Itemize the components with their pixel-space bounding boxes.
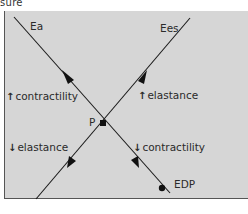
- ees-line: [36, 18, 190, 199]
- ees-label: Ees: [160, 22, 179, 34]
- diagram-root: sure Ea Ees ↑contractility ↑elastance P …: [0, 0, 248, 214]
- ea-line: [14, 17, 170, 193]
- annotation-text: contractility: [15, 90, 78, 102]
- annotation-text: elastance: [147, 89, 198, 101]
- ea-label: Ea: [30, 20, 43, 32]
- annotation-text: elastance: [17, 141, 68, 153]
- annotation-down-elastance: ↓elastance: [8, 141, 68, 154]
- point-p-marker-icon: [100, 120, 106, 126]
- down-arrow-icon: ↓: [133, 142, 141, 154]
- diagram-lines: [0, 0, 248, 214]
- annotation-down-contractility: ↓contractility: [133, 141, 205, 154]
- down-arrow-icon: ↓: [8, 142, 16, 154]
- up-arrow-icon: ↑: [6, 91, 14, 103]
- point-p-label: P: [89, 116, 95, 128]
- annotation-up-elastance: ↑elastance: [138, 89, 198, 102]
- up-arrow-icon: ↑: [138, 90, 146, 102]
- point-edp-marker-icon: [159, 185, 165, 191]
- annotation-text: contractility: [142, 141, 205, 153]
- ea-arrow-down-icon: [131, 156, 139, 168]
- point-edp-label: EDP: [174, 178, 195, 190]
- ees-arrow-down-icon: [67, 156, 76, 168]
- annotation-up-contractility: ↑contractility: [6, 90, 78, 103]
